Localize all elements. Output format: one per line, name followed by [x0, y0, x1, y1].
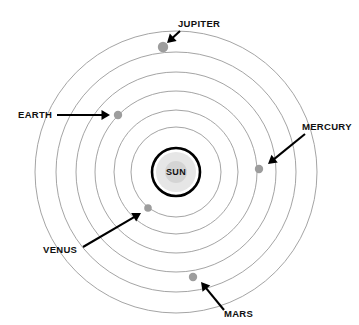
planet-dot-jupiter[interactable]	[158, 42, 168, 52]
diagram-canvas: SUN JUPITEREARTHMERCURYVENUSMARS	[0, 0, 359, 325]
planet-label-venus: VENUS	[43, 244, 77, 255]
solar-system-diagram: SUN JUPITEREARTHMERCURYVENUSMARS	[0, 0, 359, 325]
sun-group: SUN	[152, 148, 200, 196]
planet-label-earth: EARTH	[18, 109, 52, 120]
planet-label-mars: MARS	[224, 308, 253, 319]
planet-dot-earth[interactable]	[114, 111, 122, 119]
sun-label: SUN	[166, 167, 186, 177]
planet-dot-mercury[interactable]	[255, 165, 263, 173]
planet-dot-venus[interactable]	[144, 204, 152, 212]
planet-dot-mars[interactable]	[189, 273, 197, 281]
planet-label-jupiter: JUPITER	[178, 18, 220, 29]
planet-label-mercury: MERCURY	[302, 121, 352, 132]
